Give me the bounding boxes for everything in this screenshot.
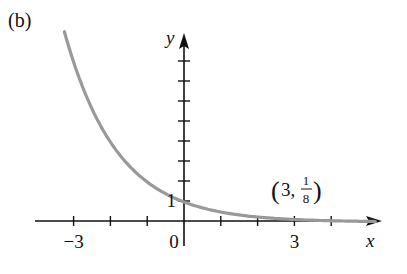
y-tick-labels: 1 xyxy=(167,190,177,211)
svg-text:1: 1 xyxy=(303,173,310,188)
svg-text:): ) xyxy=(313,176,322,205)
exponential-chart: (b) y x −303 1 (3,18) xyxy=(0,0,407,274)
point-annotation: (3,18) xyxy=(271,173,322,206)
x-tick-label: 0 xyxy=(169,231,179,252)
axes xyxy=(35,33,382,246)
x-tick-label: 3 xyxy=(290,231,300,252)
curve-series xyxy=(64,32,375,222)
svg-text:3,: 3, xyxy=(281,179,295,200)
panel-label: (b) xyxy=(8,9,31,32)
x-tick-label: −3 xyxy=(63,231,83,252)
svg-text:8: 8 xyxy=(303,191,310,206)
x-tick-labels: −303 xyxy=(63,231,299,252)
y-tick-label: 1 xyxy=(167,190,177,211)
x-axis-label: x xyxy=(365,230,375,251)
svg-text:(: ( xyxy=(271,176,280,205)
y-axis-label: y xyxy=(164,27,175,48)
